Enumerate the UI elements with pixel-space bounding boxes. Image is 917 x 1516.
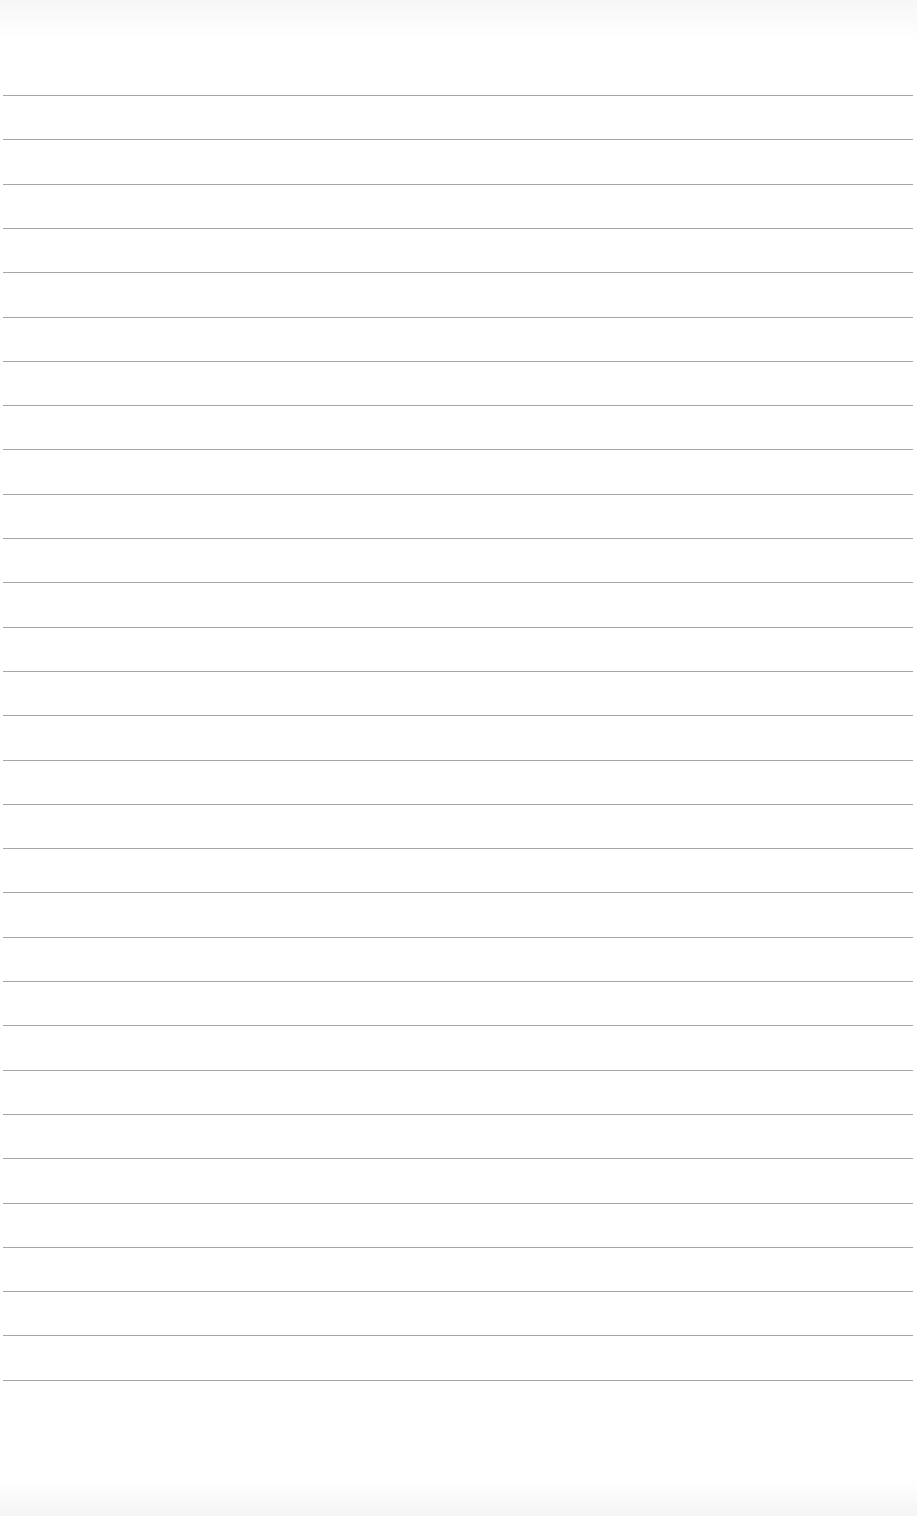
ruled-line (3, 848, 913, 849)
lined-paper-sheet (0, 0, 917, 1516)
ruled-line (3, 1335, 913, 1336)
ruled-line (3, 582, 913, 583)
ruled-line (3, 715, 913, 716)
ruled-line (3, 95, 913, 96)
ruled-line (3, 627, 913, 628)
ruled-line (3, 1203, 913, 1204)
ruled-line (3, 671, 913, 672)
ruled-line (3, 1247, 913, 1248)
ruled-line (3, 494, 913, 495)
ruled-line (3, 361, 913, 362)
ruled-line (3, 538, 913, 539)
ruled-line (3, 1114, 913, 1115)
ruled-line (3, 405, 913, 406)
ruled-line (3, 1380, 913, 1381)
ruled-line (3, 981, 913, 982)
ruled-line (3, 449, 913, 450)
ruled-line (3, 317, 913, 318)
ruled-line (3, 892, 913, 893)
ruled-line (3, 184, 913, 185)
ruled-line (3, 937, 913, 938)
ruled-line (3, 139, 913, 140)
ruled-line (3, 1158, 913, 1159)
ruled-line (3, 272, 913, 273)
ruled-line (3, 1025, 913, 1026)
ruled-line (3, 1291, 913, 1292)
ruled-line (3, 228, 913, 229)
ruled-line (3, 760, 913, 761)
ruled-line (3, 804, 913, 805)
ruled-line (3, 1070, 913, 1071)
